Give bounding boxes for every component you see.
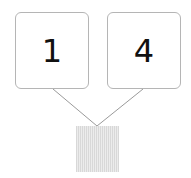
right-connector (97, 89, 143, 126)
number-box-left-label: 1 (42, 32, 62, 70)
result-square (76, 126, 119, 172)
number-box-right: 4 (107, 12, 181, 89)
number-box-right-label: 4 (134, 32, 154, 70)
number-box-left: 1 (15, 12, 89, 89)
left-connector (53, 89, 97, 126)
